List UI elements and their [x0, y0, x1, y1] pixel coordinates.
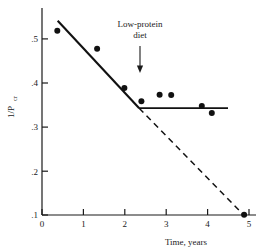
x-tick-label-2: 2: [123, 219, 128, 229]
annotation-line-2: diet: [133, 30, 147, 40]
chart-container: .5 .4 .3 .2 .1 0 1 2 3 4 5 Time, years: [0, 0, 269, 251]
data-point-2: [121, 85, 127, 91]
data-point-7: [209, 110, 215, 116]
data-point-3: [138, 98, 144, 104]
data-point-4: [157, 92, 163, 98]
y-tick-label-3: .2: [31, 167, 38, 177]
y-tick-label-2: .3: [31, 122, 38, 132]
data-point-8: [241, 212, 247, 218]
x-tick-label-4: 4: [205, 219, 210, 229]
y-tick-label-1: .4: [31, 78, 38, 88]
data-point-0: [54, 28, 60, 34]
y-tick-label-4: .1: [31, 210, 38, 220]
data-point-1: [94, 46, 100, 52]
annotation-line-1: Low-protein: [118, 19, 163, 29]
y-axis-title-main: 1/P: [6, 106, 16, 118]
y-axis-title-subscript: cr: [11, 95, 18, 101]
x-tick-label-3: 3: [164, 219, 169, 229]
x-tick-label-1: 1: [81, 219, 86, 229]
creatinine-time-scatter-chart: .5 .4 .3 .2 .1 0 1 2 3 4 5 Time, years: [0, 0, 269, 251]
x-tick-label-5: 5: [247, 219, 252, 229]
x-axis-title: Time, years: [165, 237, 208, 247]
data-point-6: [199, 103, 205, 109]
y-tick-label-0: .5: [31, 34, 38, 44]
x-tick-label-0: 0: [40, 219, 45, 229]
data-point-5: [168, 92, 174, 98]
